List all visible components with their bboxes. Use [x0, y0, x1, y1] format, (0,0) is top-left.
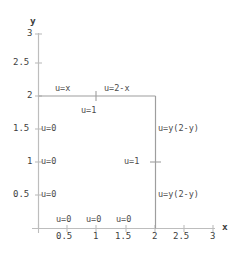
bc-label-bottom-1.5-u-eq-0: u=0	[116, 215, 131, 224]
bc-label-left-1-u-eq-0: u=0	[41, 157, 56, 166]
y-tick-label-3: 3	[27, 29, 32, 38]
x-tick-label-3: 3	[210, 232, 215, 241]
x-tick-label-2.5: 2.5	[173, 232, 189, 241]
bc-label-right-upper-u-eq-y-2-minus-y: u=y(2-y)	[158, 124, 199, 133]
x-tick-label-2: 2	[152, 232, 157, 241]
x-tick-label-1: 1	[93, 232, 98, 241]
bc-label-bottom-1-u-eq-0: u=0	[86, 215, 101, 224]
y-tick-label-1.5: 1.5	[13, 124, 29, 133]
y-tick-label-2.5: 2.5	[13, 58, 29, 67]
bc-label-top-left-u-eq-x: u=x	[55, 84, 70, 93]
bc-label-left-0.5-u-eq-0: u=0	[41, 190, 56, 199]
bc-label-right-lower-u-eq-y-2-minus-y: u=y(2-y)	[158, 190, 199, 199]
bc-label-bottom-0.5-u-eq-0: u=0	[56, 215, 71, 224]
bc-label-left-1.5-u-eq-0: u=0	[41, 124, 56, 133]
x-tick-label-0.5: 0.5	[56, 232, 72, 241]
bc-label-right-u-eq-1: u=1	[124, 157, 139, 166]
bc-label-top-right-u-eq-2-minus-x: u=2-x	[104, 84, 130, 93]
y-axis-label: y	[30, 16, 36, 25]
y-tick-label-1: 1	[27, 157, 32, 166]
y-tick-label-2: 2	[27, 91, 32, 100]
boundary-value-problem-diagram: y x 3 2.5 2 1.5 1 0.5 0.5 1 1.5 2 2.5 3 …	[0, 0, 239, 255]
bc-label-top-center-u-eq-1: u=1	[81, 106, 96, 115]
y-tick-label-0.5: 0.5	[13, 190, 29, 199]
x-tick-label-1.5: 1.5	[115, 232, 131, 241]
x-axis-label: x	[222, 222, 228, 231]
